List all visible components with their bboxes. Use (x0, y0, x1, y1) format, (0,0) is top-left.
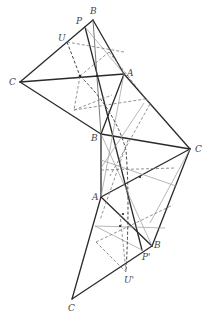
line-interior-c (95, 226, 165, 228)
dash-g (101, 168, 176, 170)
point-dot (119, 225, 121, 227)
label-a2: A (91, 192, 99, 202)
geometry-diagram: C B P U A B C A B P' U' C (0, 0, 213, 316)
point-dot (79, 75, 82, 78)
dash-i (96, 242, 126, 272)
label-b2: B (90, 133, 98, 143)
dash-b (74, 76, 80, 110)
point-dot (139, 176, 141, 178)
label-c3: C (68, 303, 75, 313)
label-a1: A (126, 68, 134, 78)
point-dot (122, 213, 124, 215)
edge-a1-c2 (124, 74, 190, 149)
dash-c (74, 99, 145, 110)
line-b2-b3 (101, 134, 152, 246)
triangle-edges (20, 20, 190, 299)
point-dot (96, 75, 98, 77)
label-u2: U' (124, 275, 134, 285)
dash-f (110, 104, 150, 176)
edge-a2-c3 (72, 197, 101, 299)
label-b1: B (89, 6, 97, 16)
line-a1-a2 (101, 74, 124, 197)
edge-a2-b3 (101, 197, 152, 246)
label-c2: C (195, 144, 202, 154)
label-c1: C (9, 77, 16, 87)
edge-c2-b3 (152, 149, 190, 246)
label-u: U (58, 33, 66, 43)
label-b3: B (153, 240, 161, 250)
label-p: P (75, 16, 83, 26)
edge-c1-b1 (20, 20, 93, 82)
label-p2: P' (141, 252, 151, 262)
edge-b3-c3 (72, 246, 152, 299)
line-interior-b (101, 160, 176, 186)
edge-c1-a1 (20, 74, 124, 82)
dash-u-1 (67, 42, 80, 76)
edge-c1-b2 (20, 82, 101, 134)
